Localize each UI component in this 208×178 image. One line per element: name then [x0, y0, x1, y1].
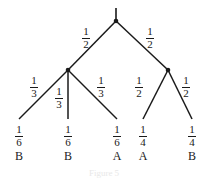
edge-right-leaf1: [143, 70, 168, 119]
leaf-probability-1-denominator: 6: [12, 137, 26, 148]
edge-label-left-leaf1: 1 3: [27, 75, 41, 99]
edge-label-left-leaf2-denominator: 3: [52, 99, 66, 110]
edge-left-leaf3: [68, 70, 117, 119]
leaf-probability-4-denominator: 4: [136, 137, 150, 148]
leaf-probability-2-numerator: 1: [61, 124, 75, 135]
leaf-outcome-2: B: [60, 150, 76, 162]
leaf-probability-5-numerator: 1: [185, 124, 199, 135]
leaf-outcome-5: B: [184, 150, 200, 162]
node-left: [66, 68, 71, 73]
edge-label-left-leaf2: 1 3: [52, 86, 66, 110]
edge-label-root-left-numerator: 1: [79, 26, 93, 37]
leaf-probability-4-numerator: 1: [136, 124, 150, 135]
edge-label-root-right: 1 2: [143, 26, 157, 50]
probability-tree-figure: 1 2 1 2 1 3 1 3 1 3 1 2 1 2 1 6 1: [0, 0, 208, 178]
edge-label-root-right-denominator: 2: [143, 39, 157, 50]
leaf-probability-5-denominator: 4: [185, 137, 199, 148]
leaf-probability-1-numerator: 1: [12, 124, 26, 135]
node-right: [166, 68, 171, 73]
edge-label-root-left-denominator: 2: [79, 39, 93, 50]
edge-label-left-leaf1-denominator: 3: [27, 88, 41, 99]
leaf-outcome-1: B: [11, 150, 27, 162]
leaf-probability-3-numerator: 1: [110, 124, 124, 135]
leaf-outcome-3: A: [109, 150, 125, 162]
leaf-probability-1: 1 6: [12, 124, 26, 148]
node-root: [114, 19, 119, 24]
edge-root-right: [116, 21, 168, 70]
edge-label-left-leaf3-numerator: 1: [94, 75, 108, 86]
figure-caption: Figure 5: [89, 168, 119, 178]
edge-label-root-right-numerator: 1: [143, 26, 157, 37]
leaf-probability-5: 1 4: [185, 124, 199, 148]
leaf-probability-2-denominator: 6: [61, 137, 75, 148]
edge-label-right-leaf1-denominator: 2: [132, 88, 146, 99]
leaf-probability-4: 1 4: [136, 124, 150, 148]
edge-label-left-leaf3: 1 3: [94, 75, 108, 99]
edge-label-right-leaf2-numerator: 1: [179, 75, 193, 86]
leaf-outcome-4: A: [135, 150, 151, 162]
edge-label-left-leaf2-numerator: 1: [52, 86, 66, 97]
edge-label-left-leaf3-denominator: 3: [94, 88, 108, 99]
edge-label-right-leaf1-numerator: 1: [132, 75, 146, 86]
leaf-probability-2: 1 6: [61, 124, 75, 148]
edge-label-right-leaf2: 1 2: [179, 75, 193, 99]
edge-label-right-leaf2-denominator: 2: [179, 88, 193, 99]
edge-label-root-left: 1 2: [79, 26, 93, 50]
leaf-probability-3-denominator: 6: [110, 137, 124, 148]
leaf-probability-3: 1 6: [110, 124, 124, 148]
edge-label-right-leaf1: 1 2: [132, 75, 146, 99]
edge-label-left-leaf1-numerator: 1: [27, 75, 41, 86]
